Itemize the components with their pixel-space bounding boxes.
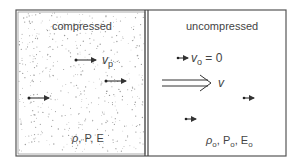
stipple-dot [23, 102, 24, 103]
stipple-dot [140, 132, 141, 133]
stipple-dot [33, 114, 34, 115]
stipple-dot [53, 143, 54, 144]
stipple-dot [143, 17, 144, 18]
stipple-dot [26, 16, 27, 17]
stipple-dot [136, 45, 137, 46]
stipple-dot [40, 81, 41, 82]
stipple-dot [47, 140, 48, 141]
stipple-dot [135, 66, 136, 67]
particle-arrow-small [243, 97, 254, 100]
stipple-dot [46, 29, 47, 30]
stipple-dot [48, 116, 49, 117]
stipple-dot [117, 61, 118, 62]
stipple-dot [137, 125, 138, 126]
stipple-dot [49, 46, 50, 47]
stipple-dot [117, 112, 118, 113]
stipple-dot [19, 63, 20, 64]
stipple-dot [114, 82, 115, 83]
stipple-dot [111, 117, 112, 118]
stipple-dot [36, 46, 37, 47]
stipple-dot [134, 37, 135, 38]
stipple-dot [34, 67, 35, 68]
shock-velocity-label: v [218, 76, 225, 90]
stipple-dot [133, 29, 134, 30]
stipple-dot [63, 69, 64, 70]
stipple-dot [37, 38, 38, 39]
stipple-dot [106, 93, 107, 94]
stipple-dot [71, 114, 72, 115]
stipple-dot [20, 118, 21, 119]
stipple-dot [139, 124, 140, 125]
stipple-dot [29, 42, 30, 43]
stipple-dot [49, 36, 50, 37]
stipple-dot [132, 109, 133, 110]
stipple-dot [134, 36, 135, 37]
stipple-dot [49, 20, 50, 21]
stipple-dot [103, 36, 104, 37]
stipple-dot [81, 107, 82, 108]
stipple-dot [92, 17, 93, 18]
stipple-dot [125, 17, 126, 18]
stipple-dot [99, 78, 100, 79]
stipple-dot [77, 74, 78, 75]
stipple-dot [118, 89, 119, 90]
stipple-dot [139, 45, 140, 46]
stipple-dot [85, 86, 86, 87]
stipple-dot [134, 147, 135, 148]
stipple-dot [132, 40, 133, 41]
stipple-dot [52, 75, 53, 76]
stipple-dot [29, 35, 30, 36]
vp-label: vp [102, 53, 113, 69]
stipple-dot [37, 94, 38, 95]
stipple-dot [69, 128, 70, 129]
stipple-dot [94, 69, 95, 70]
stipple-dot [50, 33, 51, 34]
stipple-dot [129, 145, 130, 146]
stipple-dot [131, 90, 132, 91]
stipple-dot [116, 19, 117, 20]
stipple-dot [104, 112, 105, 113]
stipple-dot [112, 129, 113, 130]
stipple-dot [47, 59, 48, 60]
stipple-dot [124, 146, 125, 147]
stipple-dot [116, 149, 117, 150]
stipple-dot [75, 151, 76, 152]
stipple-dot [142, 101, 143, 102]
stipple-dot [127, 104, 128, 105]
stipple-dot [19, 44, 20, 45]
stipple-dot [113, 142, 114, 143]
stipple-dot [35, 138, 36, 139]
stipple-dot [75, 41, 76, 42]
stipple-dot [22, 98, 23, 99]
stipple-dot [28, 28, 29, 29]
uncompressed-title: uncompressed [186, 20, 258, 32]
stipple-dot [30, 23, 31, 24]
stipple-dot [25, 144, 26, 145]
stipple-dot [116, 141, 117, 142]
stipple-dot [75, 96, 76, 97]
stipple-dot [52, 49, 53, 50]
stipple-dot [135, 115, 136, 116]
stipple-dot [133, 26, 134, 27]
stipple-dot [21, 60, 22, 61]
stipple-dot [58, 128, 59, 129]
stipple-dot [129, 73, 130, 74]
stipple-dot [74, 85, 75, 86]
stipple-dot [113, 26, 114, 27]
stipple-dot [66, 48, 67, 49]
stipple-dot [20, 94, 21, 95]
stipple-dot [83, 64, 84, 65]
stipple-dot [21, 38, 22, 39]
stipple-dot [62, 86, 63, 87]
stipple-dot [51, 15, 52, 16]
stipple-dot [31, 135, 32, 136]
stipple-dot [81, 74, 82, 75]
stipple-dot [48, 114, 49, 115]
stipple-dot [29, 22, 30, 23]
stipple-dot [34, 56, 35, 57]
stipple-dot [25, 64, 26, 65]
stipple-dot [91, 102, 92, 103]
stipple-dot [29, 21, 30, 22]
stipple-dot [93, 39, 94, 40]
stipple-dot [101, 123, 102, 124]
